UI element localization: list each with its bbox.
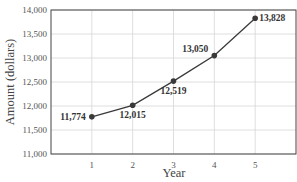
y-tick-label: 12,500 xyxy=(22,77,47,87)
data-point xyxy=(171,78,177,84)
y-axis-ticks: 11,00011,50012,00012,50013,00013,50014,0… xyxy=(22,5,47,159)
x-tick-label: 4 xyxy=(212,160,217,170)
x-tick-label: 2 xyxy=(130,160,135,170)
y-tick-label: 12,000 xyxy=(22,101,47,111)
data-point xyxy=(212,53,218,59)
data-point xyxy=(130,102,136,108)
data-point xyxy=(252,15,258,21)
data-label: 12,519 xyxy=(160,86,186,96)
y-tick-label: 11,000 xyxy=(23,149,48,159)
y-tick-label: 13,000 xyxy=(22,53,47,63)
y-tick-label: 13,500 xyxy=(22,29,47,39)
line-chart: 11,00011,50012,00012,50013,00013,50014,0… xyxy=(0,0,297,182)
data-label: 12,015 xyxy=(120,110,146,120)
data-labels: 11,77412,01512,51913,05013,828 xyxy=(60,13,285,122)
x-axis-title: Year xyxy=(162,166,186,180)
y-tick-label: 14,000 xyxy=(22,5,47,15)
data-label: 13,828 xyxy=(259,13,285,23)
x-tick-label: 5 xyxy=(253,160,258,170)
x-tick-label: 1 xyxy=(90,160,95,170)
data-label: 11,774 xyxy=(60,112,86,122)
data-point xyxy=(89,114,95,120)
y-tick-label: 11,500 xyxy=(23,125,48,135)
y-axis-title: Amount (dollars) xyxy=(3,39,17,125)
data-label: 13,050 xyxy=(182,44,208,54)
